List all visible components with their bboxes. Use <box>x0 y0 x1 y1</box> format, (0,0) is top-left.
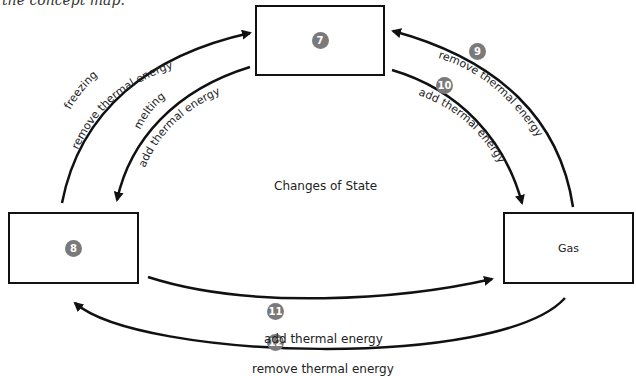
badge-11: 11 <box>267 303 284 320</box>
box-right-gas: Gas <box>503 212 634 284</box>
gas-label: Gas <box>558 242 579 255</box>
arrow-9-label: remove thermal energy <box>437 48 546 139</box>
badge-7: 7 <box>312 32 329 49</box>
box-top: 7 <box>255 5 385 76</box>
melting-sublabel: add thermal energy <box>136 84 223 169</box>
svg-text:remove thermal energy: remove thermal energy <box>437 48 546 139</box>
arrow-10-label: add thermal energy <box>417 86 508 166</box>
box-left: 8 <box>8 212 139 284</box>
badge-9: 9 <box>469 43 486 60</box>
svg-text:add thermal energy: add thermal energy <box>417 86 508 166</box>
badge-8: 8 <box>65 240 82 257</box>
arrow-12-label: remove thermal energy <box>252 362 394 376</box>
svg-text:add thermal energy: add thermal energy <box>136 84 223 169</box>
arrow-11-label: add thermal energy <box>264 332 383 346</box>
freezing-label: freezing <box>61 68 100 111</box>
svg-text:freezing: freezing <box>61 68 100 111</box>
badge-10: 10 <box>436 77 453 94</box>
center-title: Changes of State <box>274 179 377 193</box>
